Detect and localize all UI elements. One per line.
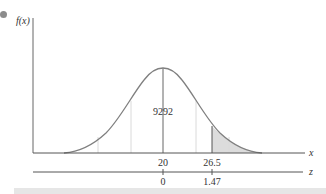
x-tick-label-threshold: 26.5 <box>203 157 221 168</box>
shaded-tail-area <box>212 127 262 154</box>
x-tick-label-mean: 20 <box>158 157 168 168</box>
z-tick-label-threshold: 1.47 <box>203 176 221 187</box>
normal-distribution-chart: f(x) x z 9292 20 26.5 0 1.47 <box>0 0 326 194</box>
z-tick-label-mean: 0 <box>161 176 166 187</box>
center-area-value: 9292 <box>153 106 173 117</box>
y-axis-label: f(x) <box>16 15 31 27</box>
bottom-divider-bar <box>14 188 326 194</box>
x-axis-label: x <box>308 147 314 158</box>
z-axis-label: z <box>308 166 313 177</box>
